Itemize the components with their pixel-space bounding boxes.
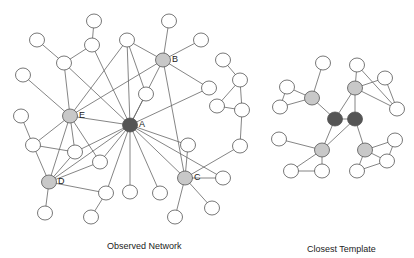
template-leaf-node xyxy=(378,71,393,85)
leaf-node xyxy=(216,53,231,67)
template-secondary-node xyxy=(348,81,363,95)
leaf-node xyxy=(16,68,31,82)
edge-E-n4 xyxy=(64,63,70,116)
network-figure xyxy=(0,0,414,258)
node-label-e: E xyxy=(79,110,85,120)
template-edge-w4-w6 xyxy=(357,65,397,109)
template-leaf-node xyxy=(380,154,395,168)
template-leaf-node xyxy=(284,164,299,178)
edge-A-n14 xyxy=(130,125,160,193)
edge-D-n9 xyxy=(49,162,100,182)
node-label-c: C xyxy=(194,172,201,182)
template-leaf-node xyxy=(272,132,287,146)
template-leaf-node xyxy=(350,58,365,72)
template-secondary-node xyxy=(358,143,373,157)
leaf-node xyxy=(153,186,168,200)
leaf-node xyxy=(233,139,248,153)
leaf-node xyxy=(233,73,248,87)
template-secondary-node xyxy=(305,91,320,105)
edge-E-n15 xyxy=(70,40,127,116)
leaf-node xyxy=(84,210,99,224)
leaf-node xyxy=(235,103,250,117)
leaf-node xyxy=(93,155,108,169)
leaf-node xyxy=(139,87,154,101)
node-e xyxy=(63,109,78,123)
edge-n2-A xyxy=(92,45,130,125)
leaf-node xyxy=(194,33,209,47)
leaf-node xyxy=(68,145,83,159)
edge-E-n5 xyxy=(23,75,70,116)
edge-A-D xyxy=(49,125,130,182)
leaf-node xyxy=(181,138,196,152)
leaf-node xyxy=(120,33,135,47)
template-leaf-node xyxy=(390,102,405,116)
leaf-node xyxy=(30,33,45,47)
leaf-node xyxy=(87,14,102,28)
caption-closest-template: Closest Template xyxy=(307,244,376,254)
node-b xyxy=(156,53,171,67)
template-secondary-node xyxy=(315,143,330,157)
leaf-node xyxy=(202,81,217,95)
template-leaf-node xyxy=(350,164,365,178)
template-leaf-node xyxy=(273,100,288,114)
leaf-node xyxy=(99,186,114,200)
leaf-node xyxy=(26,138,41,152)
template-leaf-node xyxy=(280,80,295,94)
leaf-node xyxy=(205,201,220,215)
leaf-node xyxy=(85,38,100,52)
node-c xyxy=(178,171,193,185)
leaf-node xyxy=(168,210,183,224)
edge-A-n15 xyxy=(127,40,130,125)
edge-B-n19 xyxy=(163,60,209,88)
template-leaf-node xyxy=(315,164,330,178)
leaf-node xyxy=(123,185,138,199)
leaf-node xyxy=(216,171,231,185)
node-d xyxy=(42,175,57,189)
edge-E-D xyxy=(49,116,70,182)
template-leaf-node xyxy=(316,56,331,70)
edge-n15-n16 xyxy=(127,40,146,94)
template-hub-node xyxy=(348,112,363,126)
node-label-d: D xyxy=(58,176,65,186)
leaf-node xyxy=(162,14,177,28)
leaf-node xyxy=(210,99,225,113)
template-hub-node xyxy=(328,112,343,126)
node-label-b: B xyxy=(172,54,178,64)
node-label-a: A xyxy=(139,119,145,129)
template-leaf-node xyxy=(388,133,403,147)
leaf-node xyxy=(14,109,29,123)
leaf-node xyxy=(57,56,72,70)
caption-observed-network: Observed Network xyxy=(107,241,182,251)
node-a xyxy=(123,118,138,132)
leaf-node xyxy=(38,206,53,220)
